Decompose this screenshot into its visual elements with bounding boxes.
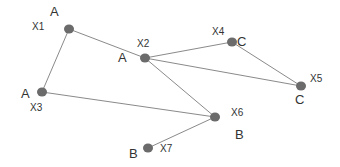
node-x2 (140, 54, 150, 63)
edge-x2-x5 (145, 58, 301, 86)
edge-x1-x3 (42, 29, 69, 92)
cluster-label: B (235, 127, 244, 142)
node-id-label: X6 (231, 107, 244, 118)
node-x5 (296, 82, 306, 91)
edge-x6-x7 (148, 117, 215, 148)
network-diagram: X1AX2AX3AX4CX5CX6BX7B (0, 0, 340, 167)
node-x3 (37, 88, 47, 97)
cluster-label: C (295, 92, 304, 107)
node-id-label: X5 (310, 73, 323, 84)
node-id-label: X1 (32, 21, 45, 32)
nodes-layer (37, 25, 306, 153)
node-id-label: X2 (137, 38, 150, 49)
node-x4 (227, 38, 237, 47)
edge-x2-x4 (145, 42, 232, 58)
node-x7 (143, 144, 153, 153)
edge-x1-x2 (69, 29, 145, 58)
cluster-label: B (129, 146, 138, 161)
node-x1 (64, 25, 74, 34)
cluster-label: A (118, 50, 127, 65)
cluster-label: A (50, 4, 59, 19)
node-id-label: X4 (212, 26, 225, 37)
graph-svg: X1AX2AX3AX4CX5CX6BX7B (0, 0, 340, 167)
edges-layer (42, 29, 301, 148)
node-id-label: X7 (160, 143, 173, 154)
node-id-label: X3 (30, 102, 43, 113)
node-x6 (210, 113, 220, 122)
cluster-label: C (237, 34, 246, 49)
cluster-label: A (21, 86, 30, 101)
